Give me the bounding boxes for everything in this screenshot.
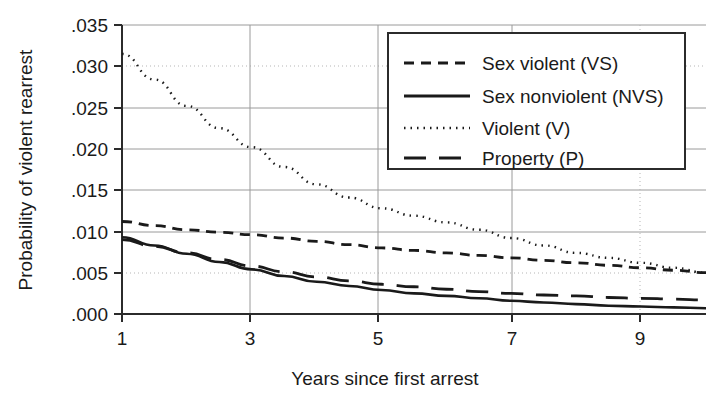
y-tick-label-005: .005 [71, 263, 108, 284]
chart-page: .035 .030 .025 .020 .015 .010 .005 .000 … [0, 0, 716, 408]
y-tick-label-025: .025 [71, 98, 108, 119]
x-axis-title: Years since first arrest [291, 368, 479, 389]
legend-label-sex-violent: Sex violent (VS) [482, 53, 618, 74]
y-tick-label-015: .015 [71, 180, 108, 201]
x-tick-label-9: 9 [635, 328, 646, 349]
x-tick-label-3: 3 [245, 328, 256, 349]
x-tick-label-5: 5 [373, 328, 384, 349]
chart-legend: Sex violent (VS) Sex nonviolent (NVS) Vi… [388, 33, 685, 169]
y-tick-label-020: .020 [71, 139, 108, 160]
y-tick-label-010: .010 [71, 222, 108, 243]
y-tick-label-000: .000 [71, 304, 108, 325]
legend-label-property: Property (P) [482, 148, 584, 169]
x-tick-label-1: 1 [117, 328, 128, 349]
y-tick-label-030: .030 [71, 56, 108, 77]
legend-label-sex-nonviolent: Sex nonviolent (NVS) [482, 86, 664, 107]
probability-of-violent-rearrest-line-chart: .035 .030 .025 .020 .015 .010 .005 .000 … [0, 0, 716, 408]
x-tick-label-7: 7 [507, 328, 518, 349]
y-tick-label-035: .035 [71, 15, 108, 36]
legend-label-violent: Violent (V) [482, 118, 570, 139]
y-axis-title: Probability of violent rearrest [15, 49, 36, 290]
